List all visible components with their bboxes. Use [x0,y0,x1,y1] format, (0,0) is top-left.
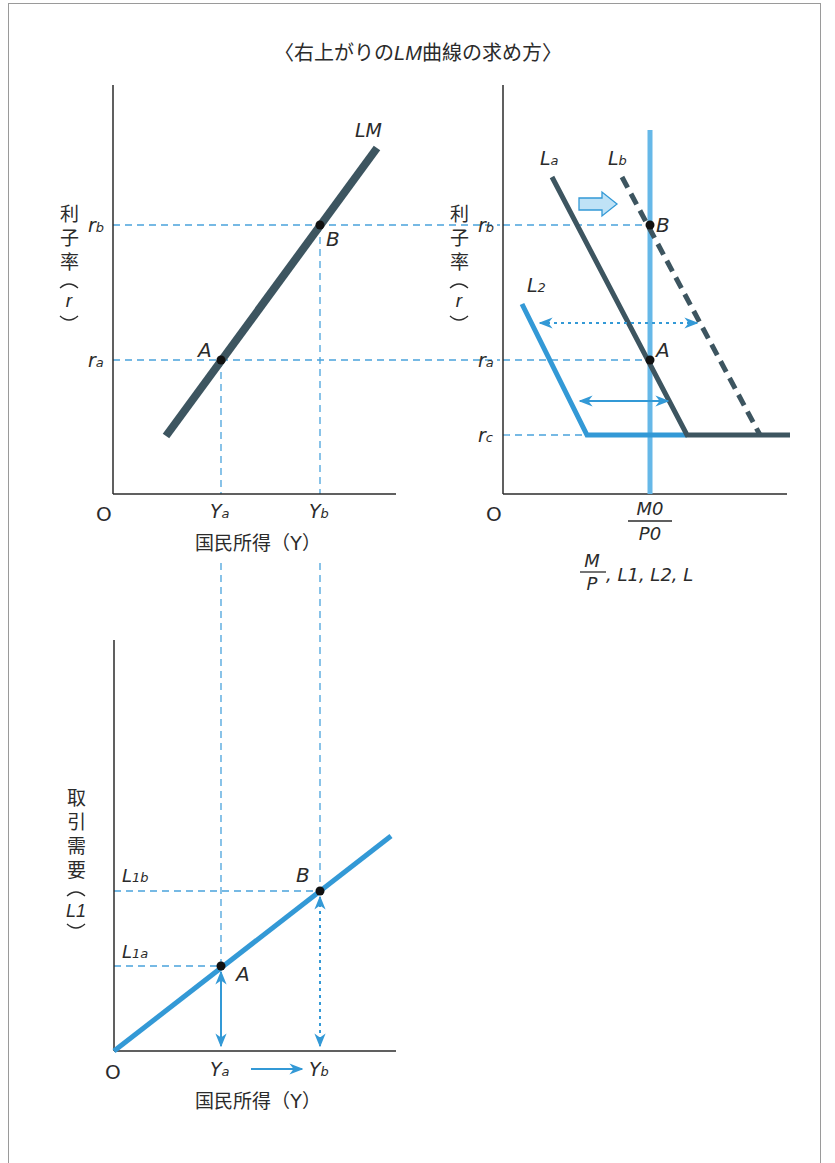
point-b-label: B [326,227,340,251]
l1-line [114,836,391,1051]
lm-label: LM [355,119,382,141]
svg-text:率: 率 [450,251,469,273]
point-a [217,356,226,365]
point-b [316,221,325,230]
lb-label: Lb [608,147,627,169]
point-a-label: A [654,338,670,362]
tick-l1a: L1a [122,941,148,962]
y-axis-label: 利 子 率 r [60,203,79,320]
guide-lines [113,225,500,494]
svg-text:子: 子 [60,227,79,249]
tick-ya: Ya [210,1058,230,1080]
guide-lines [503,225,650,435]
tick-yb: Yb [309,500,329,522]
lb-curve [622,177,760,435]
svg-text:r: r [456,290,463,311]
point-b-label: B [296,863,310,887]
point-a-label: A [234,962,250,986]
point-a-label: A [196,338,212,362]
svg-text:, L1, L2, L: , L1, L2, L [606,564,693,585]
svg-text:利: 利 [450,203,469,225]
x-axis-label: 国民所得（Y） [195,532,321,554]
point-a [646,356,655,365]
svg-text:L1: L1 [66,901,86,921]
guide-lines [114,563,320,966]
la-label: La [540,147,559,169]
origin-label: O [105,1060,121,1084]
panel-lm-curve: LM A B rb ra Ya Yb O 国民所得（Y） 利 子 率 r [60,85,501,554]
point-b [646,221,655,230]
la-curve [552,177,790,435]
tick-rb: rb [478,214,494,236]
svg-text:M0: M0 [637,498,664,519]
point-a [217,962,226,971]
svg-text:M: M [584,550,600,571]
x-axis-label: 国民所得（Y） [195,1090,321,1112]
tick-rc: rc [478,424,493,446]
svg-text:要: 要 [67,859,86,881]
svg-text:r: r [66,290,73,311]
tick-rb: rb [88,214,104,236]
tick-yb: Yb [309,1058,329,1080]
tick-l1b: L1b [122,865,149,886]
panel-money-market: A B La Lb L2 rb ra rc O M0 P0 M P , L1, … [450,85,791,594]
svg-text:率: 率 [60,251,79,273]
y-axis-label: 利 子 率 r [450,203,469,320]
point-b [316,887,325,896]
l2-label: L2 [527,274,546,296]
y-axis-label: 取 引 需 要 L1 [66,787,86,928]
tick-m0-p0: M0 P0 [628,498,672,544]
lm-curve [166,148,377,436]
tick-ra: ra [478,349,494,371]
panel-transaction-demand: A B L1b L1a Ya Yb O 国民所得（Y） 取 引 需 要 L1 [66,563,396,1112]
svg-text:取: 取 [67,787,86,809]
tick-ra: ra [88,349,104,371]
tick-ya: Ya [210,500,230,522]
origin-label: O [486,502,502,526]
svg-text:需: 需 [67,835,86,857]
svg-text:利: 利 [60,203,79,225]
svg-text:P0: P0 [639,523,661,544]
shift-arrow-icon [579,192,617,216]
svg-text:P: P [587,573,598,594]
point-b-label: B [656,213,670,237]
x-axis-label: M P , L1, L2, L [580,550,693,594]
figure-title: 〈右上がりのLM曲線の求め方〉 [274,41,562,65]
svg-text:引: 引 [67,811,86,833]
origin-label: O [96,502,112,526]
svg-text:子: 子 [450,227,469,249]
